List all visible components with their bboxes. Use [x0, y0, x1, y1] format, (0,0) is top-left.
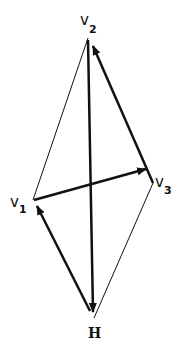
arrow-v2-to-H [88, 40, 93, 312]
edge-v3-H [94, 183, 153, 318]
label-v2: v 2 [80, 11, 97, 36]
label-v1: v 1 [10, 193, 27, 216]
label-v3: v 3 [155, 173, 172, 197]
svg-text:1: 1 [19, 203, 27, 216]
svg-text:v: v [155, 173, 164, 191]
svg-text:H: H [88, 325, 101, 341]
svg-text:v: v [80, 11, 89, 29]
svg-text:3: 3 [164, 184, 172, 197]
edge-v1-v2 [33, 38, 88, 200]
vector-diagram: v 2 v 3 v 1 H [0, 0, 181, 353]
label-H: H [88, 325, 101, 341]
arrow-H-to-v1 [37, 206, 90, 311]
svg-text:v: v [10, 193, 19, 211]
svg-text:2: 2 [89, 23, 97, 36]
arrow-v3-to-v2 [93, 46, 153, 183]
